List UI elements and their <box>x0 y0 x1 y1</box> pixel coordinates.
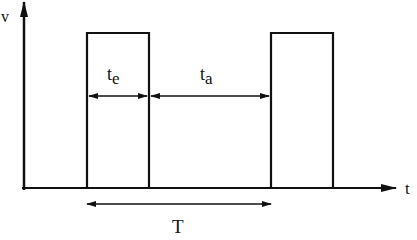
pulse-width-label: te <box>107 64 120 88</box>
y-axis-label: v <box>1 8 9 25</box>
period-label: T <box>172 216 184 237</box>
pulse-diagram: v t te ta T <box>0 0 417 240</box>
pulse-2 <box>271 33 333 188</box>
x-axis-label: t <box>405 179 410 198</box>
pulse-1 <box>87 33 149 188</box>
gap-label: ta <box>200 64 213 88</box>
